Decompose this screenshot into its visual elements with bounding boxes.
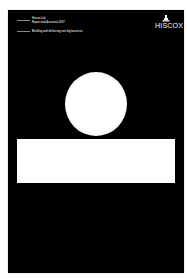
castle-icon — [162, 15, 170, 22]
hiscox-logo: HISCOX — [155, 15, 177, 30]
white-band-graphic — [17, 139, 175, 183]
report-title: Report and Accounts 2007 — [32, 21, 65, 24]
report-subtitle: Building and delivering one big business — [32, 30, 83, 33]
header-rule-top — [17, 20, 30, 21]
logo-wordmark: HISCOX — [155, 22, 177, 30]
white-circle-graphic — [65, 72, 127, 136]
document-cover-page: Hiscox Ltd Report and Accounts 2007 Buil… — [8, 10, 184, 273]
header-rule-bottom — [17, 31, 30, 32]
